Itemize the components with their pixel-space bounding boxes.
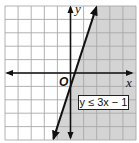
origin-label: O bbox=[59, 76, 68, 88]
inequality-label: y ≤ 3x − 1 bbox=[78, 95, 129, 110]
inequality-graph bbox=[0, 0, 139, 143]
y-axis-label: y bbox=[75, 2, 81, 15]
x-axis-label: x bbox=[126, 76, 132, 89]
